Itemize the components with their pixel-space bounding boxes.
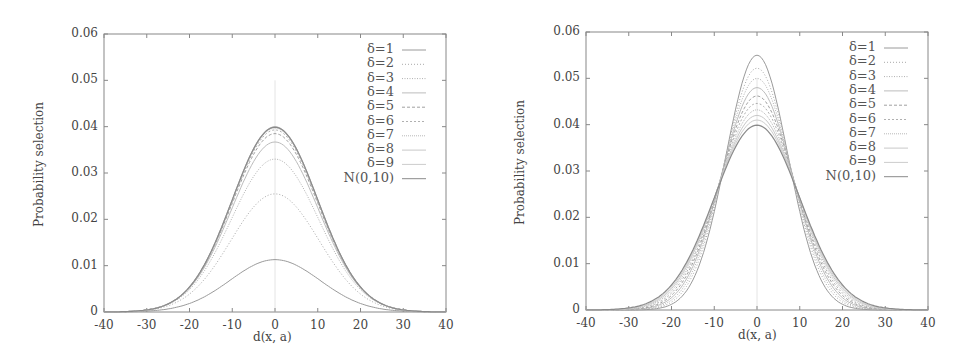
- legend-label: δ=1: [796, 39, 876, 54]
- legend-label: δ=5: [314, 98, 394, 113]
- legend-label: δ=3: [314, 70, 394, 85]
- y-tick-label: 0.01: [60, 258, 98, 272]
- y-tick-label: 0.02: [60, 211, 98, 225]
- y-tick-label: 0.04: [542, 117, 580, 131]
- x-tick-label: -30: [619, 316, 639, 330]
- legend-label: δ=9: [796, 153, 876, 168]
- x-tick-label: -20: [662, 316, 682, 330]
- x-tick-label: -30: [137, 318, 157, 332]
- y-tick-label: 0.02: [542, 209, 580, 223]
- left-y-axis-label: Probability selection: [32, 117, 46, 227]
- legend-label: δ=4: [314, 84, 394, 99]
- y-tick-label: 0: [60, 304, 98, 318]
- x-tick-label: -10: [222, 318, 242, 332]
- x-tick-label: 20: [351, 318, 371, 332]
- x-tick-label: 30: [393, 318, 413, 332]
- y-tick-label: 0.01: [542, 256, 580, 270]
- x-tick-label: 10: [790, 316, 810, 330]
- x-tick-label: -10: [704, 316, 724, 330]
- x-tick-label: 30: [875, 316, 895, 330]
- right-x-axis-label: d(x, a): [738, 328, 777, 342]
- legend-label: N(0,10): [796, 168, 876, 183]
- legend-label: δ=7: [796, 125, 876, 140]
- right-y-axis-label: Probability selection: [513, 115, 527, 225]
- right-chart-panel: Probability selection d(x, a) -40-30-20-…: [481, 0, 962, 363]
- legend-label: δ=6: [314, 113, 394, 128]
- legend-label: δ=2: [796, 53, 876, 68]
- y-tick-label: 0.05: [542, 70, 580, 84]
- legend-label: δ=6: [796, 111, 876, 126]
- x-tick-label: 0: [747, 316, 767, 330]
- x-tick-label: -20: [180, 318, 200, 332]
- legend-label: δ=8: [796, 139, 876, 154]
- legend-label: δ=9: [314, 155, 394, 170]
- y-tick-label: 0: [542, 302, 580, 316]
- legend-label: δ=7: [314, 127, 394, 142]
- y-tick-label: 0.06: [542, 24, 580, 38]
- legend-label: δ=1: [314, 41, 394, 56]
- x-tick-label: 20: [833, 316, 853, 330]
- legend-label: δ=4: [796, 82, 876, 97]
- x-tick-label: 40: [918, 316, 938, 330]
- legend-label: δ=2: [314, 55, 394, 70]
- legend-label: δ=5: [796, 96, 876, 111]
- y-tick-label: 0.03: [542, 163, 580, 177]
- legend-label: δ=8: [314, 141, 394, 156]
- x-tick-label: -40: [576, 316, 596, 330]
- legend-label: N(0,10): [314, 170, 394, 185]
- y-tick-label: 0.03: [60, 165, 98, 179]
- y-tick-label: 0.04: [60, 119, 98, 133]
- x-tick-label: 0: [265, 318, 285, 332]
- legend-label: δ=3: [796, 68, 876, 83]
- x-tick-label: 40: [436, 318, 456, 332]
- x-tick-label: 10: [308, 318, 328, 332]
- y-tick-label: 0.05: [60, 72, 98, 86]
- y-tick-label: 0.06: [60, 26, 98, 40]
- x-tick-label: -40: [94, 318, 114, 332]
- left-chart-panel: Probability selection d(x, a) -40-30-20-…: [0, 0, 481, 363]
- left-x-axis-label: d(x, a): [253, 330, 292, 344]
